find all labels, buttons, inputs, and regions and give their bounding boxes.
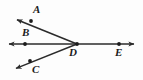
- ray-diagram-canvas: [0, 0, 143, 80]
- geometry-figure: A B C D E: [0, 0, 143, 80]
- ray-DC: [16, 44, 77, 68]
- point-label-D: D: [69, 47, 77, 58]
- point-label-E: E: [115, 47, 122, 58]
- point-dot-B: [23, 42, 27, 46]
- point-label-A: A: [33, 4, 40, 15]
- point-dot-A: [29, 19, 33, 23]
- point-label-B: B: [22, 27, 29, 38]
- point-label-C: C: [32, 64, 39, 75]
